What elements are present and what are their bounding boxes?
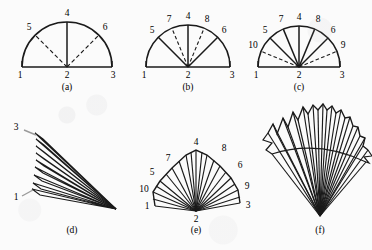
panel-e-label-5: 5	[150, 167, 155, 177]
panel-f: (f)	[263, 104, 372, 236]
panel-e-label-7: 7	[166, 153, 171, 163]
construction-sequence-diagram: 1 2 3 4 5 6 (a) 1 2 3 4 5 6 7 8 (b)	[0, 0, 372, 250]
panel-d-leader-3	[24, 130, 36, 135]
panel-d: 3 1 (d)	[14, 122, 116, 236]
panel-b: 1 2 3 4 5 6 7 8 (b)	[142, 11, 235, 93]
panel-e-rib	[166, 174, 196, 211]
panel-c-label-3: 3	[340, 70, 345, 80]
panel-a-dashed-ray-5	[35, 35, 67, 67]
panel-c-label-2: 2	[297, 70, 302, 80]
panel-e-label-6: 6	[238, 160, 243, 170]
panel-c-solid-ray-6	[299, 38, 328, 67]
panel-c-label-8: 8	[316, 14, 321, 24]
panel-b-label-4: 4	[186, 11, 191, 21]
panel-e-label-3: 3	[246, 200, 251, 210]
panel-e-label-9: 9	[245, 181, 250, 191]
panel-e-label-10: 10	[139, 184, 149, 194]
panel-a-label-1: 1	[18, 70, 23, 80]
panel-b-caption: (b)	[182, 82, 193, 93]
panel-c-label-9: 9	[341, 40, 346, 50]
panel-b-label-1: 1	[142, 70, 147, 80]
figure-root: 1 2 3 4 5 6 (a) 1 2 3 4 5 6 7 8 (b)	[0, 0, 372, 250]
panel-b-label-8: 8	[205, 14, 210, 24]
panel-e-label-2: 2	[194, 214, 199, 224]
panel-b-label-7: 7	[167, 14, 172, 24]
panel-a-dashed-ray-6	[67, 35, 99, 67]
panel-a-label-3: 3	[111, 70, 116, 80]
panel-d-caption: (d)	[66, 225, 77, 236]
panel-b-label-5: 5	[150, 25, 155, 35]
panel-c: 1 2 3 4 5 6 7 8 9 10 (c)	[248, 12, 345, 93]
panel-f-caption: (f)	[315, 225, 325, 236]
panel-e-label-4: 4	[194, 137, 199, 147]
panel-e-label-1: 1	[145, 201, 150, 211]
panel-c-label-10: 10	[248, 40, 258, 50]
panel-c-label-7: 7	[279, 14, 284, 24]
panel-c-label-6: 6	[331, 25, 336, 35]
panel-d-leader-1	[22, 190, 33, 196]
panel-f-rib	[320, 117, 350, 216]
panel-a-label-5: 5	[27, 22, 32, 32]
panel-c-label-5: 5	[263, 25, 268, 35]
panel-f-rib-group	[268, 104, 368, 216]
panel-a-label-4: 4	[65, 8, 70, 18]
panel-e-label-8: 8	[222, 143, 227, 153]
panel-e-rib	[196, 172, 226, 211]
panel-b-label-2: 2	[186, 70, 191, 80]
panel-c-label-4: 4	[297, 12, 302, 22]
panel-c-label-1: 1	[254, 70, 259, 80]
panel-a-label-6: 6	[103, 22, 108, 32]
panel-b-label-3: 3	[230, 70, 235, 80]
panel-a: 1 2 3 4 5 6 (a)	[18, 8, 116, 93]
panel-e: 1 10 5 7 4 8 6 9 3 2 (e)	[139, 137, 250, 236]
panel-a-label-2: 2	[65, 70, 70, 80]
panel-b-dashed-ray-8	[188, 28, 204, 67]
panel-c-caption: (c)	[294, 82, 305, 93]
panel-d-pleat-stack	[32, 133, 116, 209]
panel-e-caption: (e)	[191, 225, 202, 236]
panel-b-dashed-ray-7	[172, 28, 188, 67]
panel-d-label-3: 3	[14, 122, 19, 132]
panel-c-solid-ray-5	[270, 38, 299, 67]
panel-d-label-1: 1	[14, 192, 19, 202]
panel-a-caption: (a)	[62, 82, 73, 93]
panel-b-solid-ray-5	[158, 37, 188, 67]
panel-b-label-6: 6	[222, 25, 227, 35]
panel-b-solid-ray-6	[188, 37, 218, 67]
